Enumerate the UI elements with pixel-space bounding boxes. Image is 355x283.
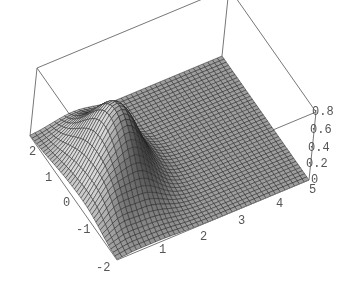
z-tick-label: 0.8	[312, 106, 334, 118]
x-tick-label: 5	[309, 184, 316, 196]
y-tick-label: 0	[63, 197, 70, 209]
x-tick-label: 2	[200, 231, 207, 243]
z-tick-label: 0.4	[308, 142, 330, 154]
x-tick-label: 1	[159, 244, 166, 256]
y-tick-label: -2	[96, 262, 110, 274]
surface-canvas	[0, 0, 355, 283]
z-tick-label: 0.2	[306, 158, 328, 170]
surface-plot: 0.8 0.6 0.4 0.2 0 1 2 3 4 5 -2 -1 0 1 2	[0, 0, 355, 283]
y-tick-label: 2	[29, 146, 36, 158]
y-tick-label: 1	[45, 172, 52, 184]
x-tick-label: 4	[276, 198, 283, 210]
x-tick-label: 3	[238, 215, 245, 227]
z-tick-label: 0.6	[310, 124, 332, 136]
y-tick-label: -1	[76, 224, 90, 236]
